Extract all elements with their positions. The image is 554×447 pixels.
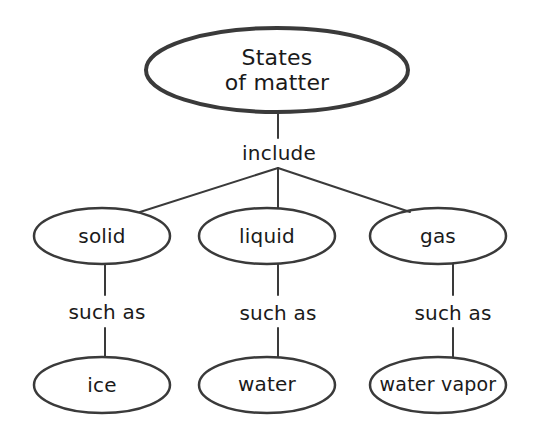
gas-link-label: such as [414, 302, 491, 325]
root-label-line2: of matter [225, 70, 330, 95]
liquid-node-label: liquid [239, 225, 295, 248]
water-vapor-node-label: water vapor [380, 374, 497, 396]
solid-node-label: solid [78, 225, 125, 248]
include-link-label: include [242, 142, 316, 165]
ice-node-label: ice [87, 374, 116, 397]
connector-include-gas [278, 168, 410, 212]
root-node-label: States of matter [225, 45, 330, 96]
gas-node-label: gas [420, 225, 456, 248]
root-label-line1: States [225, 45, 330, 70]
water-node-label: water [238, 373, 296, 396]
liquid-link-label: such as [239, 302, 316, 325]
connector-include-solid [140, 168, 278, 212]
solid-link-label: such as [68, 301, 145, 324]
